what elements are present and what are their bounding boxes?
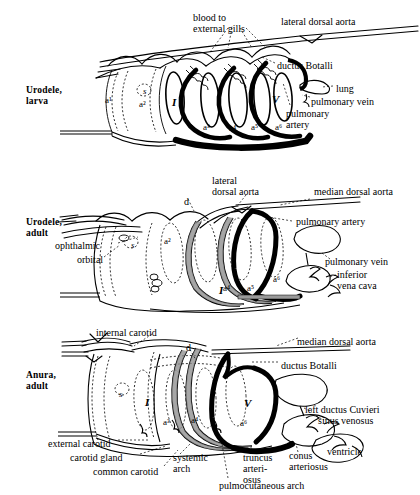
label-ophthalmic: ophthalmic [55, 240, 100, 251]
label-lateral-dorsal-aorta: lateral dorsal aorta [212, 175, 259, 197]
label-ductus-d: d [184, 196, 189, 207]
label-pulmonary-vein: pulmonary vein [311, 96, 374, 107]
label-left-ductus-cuvieri: left ductus Cuvieri [305, 404, 379, 415]
arch-mark-arch-a2: a² [139, 99, 146, 109]
arch-mark-spiracle-s: s [143, 86, 147, 96]
arch-mark-arch-roman-I: I [145, 397, 149, 407]
label-inferior-vena-cava: inferior vena cava [337, 269, 377, 291]
label-lateral-dorsal-aorta: lateral dorsal aorta [281, 16, 355, 27]
arch-mark-arch-a6: a⁶ [275, 122, 282, 132]
label-pulmonary-artery: pulmonary artery [286, 108, 329, 130]
label-conus-arteriosus: conus arteriosus [289, 450, 328, 472]
label-pulmocutaneous-arch: pulmocutaneous arch [219, 480, 304, 491]
arch-mark-arch-a6: a⁶ [240, 418, 247, 428]
label-orbital: orbital [77, 254, 103, 265]
label-ductus-d: d [186, 342, 191, 353]
arch-mark-arch-roman-V: V [272, 94, 279, 104]
label-ductus-botalli: ductus Botalli [277, 60, 333, 71]
arch-mark-spiracle-s: s [119, 389, 123, 399]
arch-mark-arch-a5: a⁵ [251, 122, 258, 132]
arch-mark-arch-roman-V: V [244, 398, 251, 408]
panel-title-urodele-larva: Urodele, larva [26, 85, 62, 107]
label-median-dorsal-aorta: median dorsal aorta [314, 186, 393, 197]
figure-page: Urodele, larva [0, 0, 420, 495]
arch-mark-arch-a3: a³ [203, 122, 210, 132]
arch-mark-arch-a5: a⁵ [247, 283, 254, 293]
label-sinus-venosus: sinus venosus [318, 415, 373, 426]
arch-mark-arch-a2: a² [164, 236, 171, 246]
arch-mark-arch-a4: a⁴ [223, 283, 230, 293]
label-internal-carotid: internal carotid [96, 327, 157, 338]
label-pulmonary-artery: pulmonary artery [296, 216, 365, 227]
arch-mark-arch-a1: a¹ [105, 95, 112, 105]
label-lung: lung [336, 83, 354, 94]
arch-mark-arch-a3: a³ [163, 417, 170, 427]
label-systemic-arch: systemic arch [173, 452, 208, 474]
arch-mark-arch-a4: a⁴ [191, 415, 198, 425]
label-common-carotid: common carotid [93, 466, 158, 477]
label-median-dorsal-aorta: median dorsal aorta [297, 336, 376, 347]
label-pulmonary-vein: pulmonary vein [325, 256, 388, 267]
label-carotid-gland: carotid gland [70, 452, 122, 463]
arch-mark-arch-a4: a⁴ [229, 123, 236, 133]
label-ventricle: ventricle [327, 446, 362, 457]
label-ductus-botalli: ductus Botalli [281, 360, 337, 371]
panel-title-urodele-adult: Urodele, adult [26, 217, 62, 239]
arch-mark-arch-a6: a⁶ [273, 274, 280, 284]
arch-mark-spiracle-s: s [131, 240, 135, 250]
arch-mark-arch-roman-I: I [172, 97, 176, 107]
label-blood-to-external-gills: blood to external gills [193, 12, 245, 34]
panel-title-anura-adult: Anura, adult [26, 370, 56, 392]
label-external-carotid: external carotid [48, 438, 110, 449]
